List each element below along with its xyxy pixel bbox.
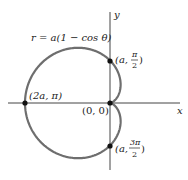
point-a-3pi-over-2 <box>107 143 112 148</box>
label-origin: (0, 0) <box>82 105 109 116</box>
y-axis-label: y <box>113 9 120 20</box>
label-bottom-frac-den: 2 <box>132 150 137 159</box>
label-left: (2a, π) <box>29 90 62 101</box>
label-bottom-close: ) <box>141 143 145 154</box>
label-top-frac-den: 2 <box>132 61 137 70</box>
label-bottom-main: (a, <box>115 143 128 154</box>
equation-label: r = a(1 − cos θ) <box>31 32 111 43</box>
cardioid-diagram: y x r = a(1 − cos θ) (a, π 2 ) (2a, π) (… <box>0 0 188 180</box>
label-top-main: (a, <box>115 54 128 65</box>
diagram-svg: y x r = a(1 − cos θ) (a, π 2 ) (2a, π) (… <box>0 0 188 180</box>
x-axis-label: x <box>177 105 183 116</box>
label-top-close: ) <box>139 54 143 65</box>
point-a-pi-over-2 <box>107 58 112 63</box>
label-top-frac-num: π <box>131 50 138 59</box>
label-bottom-frac-num: 3π <box>130 138 141 147</box>
point-2a-pi <box>22 100 27 105</box>
